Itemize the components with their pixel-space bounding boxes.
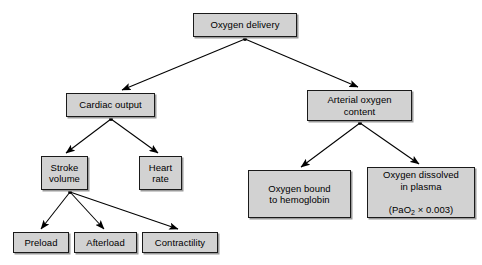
edge-stroke-volume-to-contractility — [70, 192, 178, 229]
node-cardiac-output-label: Cardiac output — [76, 99, 145, 111]
edge-arterial-oxygen-content-to-oxygen-bound-hemoglobin — [301, 123, 360, 167]
node-cardiac-output[interactable]: Cardiac output — [66, 93, 155, 117]
edge-cardiac-output-to-stroke-volume — [66, 119, 111, 153]
node-oxygen-bound-hemoglobin[interactable]: Oxygen bound to hemoglobin — [248, 170, 351, 218]
node-arterial-oxygen-content[interactable]: Arterial oxygen content — [307, 90, 412, 121]
node-oxygen-dissolved-plasma-label: Oxygen dissolved in plasma — [380, 169, 462, 192]
node-preload[interactable]: Preload — [13, 232, 69, 253]
formula-suffix: × 0.003) — [415, 204, 453, 215]
node-arterial-oxygen-content-label: Arterial oxygen content — [324, 94, 394, 117]
formula-prefix: (PaO — [389, 204, 411, 215]
edge-hub-arterial-oxygen-content — [358, 121, 362, 125]
edge-oxygen-delivery-to-cardiac-output — [122, 39, 245, 90]
node-oxygen-delivery[interactable]: Oxygen delivery — [193, 13, 297, 37]
node-heart-rate-label: Heart rate — [146, 162, 175, 185]
node-contractility[interactable]: Contractility — [142, 232, 218, 253]
node-preload-label: Preload — [21, 237, 60, 249]
edge-hub-cardiac-output — [109, 117, 113, 121]
node-stroke-volume[interactable]: Stroke volume — [41, 156, 88, 190]
edge-stroke-volume-to-preload — [41, 192, 70, 229]
edge-oxygen-delivery-to-arterial-oxygen-content — [245, 39, 358, 87]
edge-hub-stroke-volume — [68, 190, 72, 194]
node-stroke-volume-label: Stroke volume — [46, 162, 83, 185]
edge-hub-oxygen-delivery — [243, 37, 247, 41]
node-oxygen-dissolved-plasma-formula: (PaO2 × 0.003) — [380, 204, 462, 217]
diagram-canvas: Oxygen delivery Cardiac output Arterial … — [0, 0, 482, 265]
node-oxygen-bound-hemoglobin-label: Oxygen bound to hemoglobin — [265, 183, 333, 206]
node-afterload[interactable]: Afterload — [74, 232, 137, 253]
node-contractility-label: Contractility — [152, 237, 208, 249]
formula-subscript: 2 — [411, 209, 415, 216]
node-heart-rate[interactable]: Heart rate — [139, 156, 182, 190]
edge-cardiac-output-to-heart-rate — [111, 119, 158, 153]
node-oxygen-dissolved-plasma-wrap: Oxygen dissolved in plasma (PaO2 × 0.003… — [380, 158, 462, 228]
node-afterload-label: Afterload — [83, 237, 127, 249]
node-oxygen-delivery-label: Oxygen delivery — [208, 19, 283, 31]
node-oxygen-dissolved-plasma[interactable]: Oxygen dissolved in plasma (PaO2 × 0.003… — [367, 167, 475, 218]
